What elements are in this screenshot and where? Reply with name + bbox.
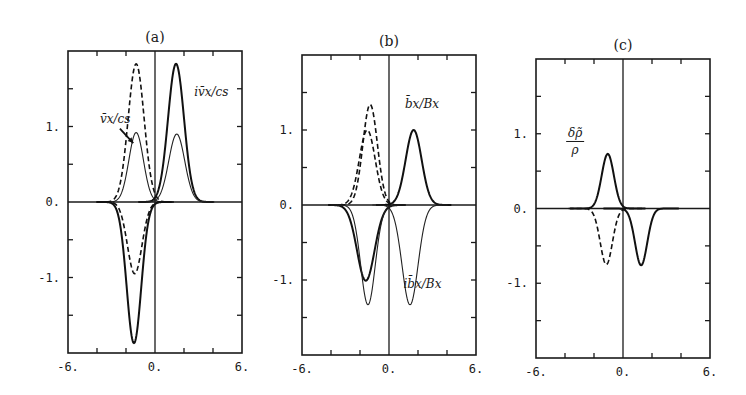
y-tick-label: 0. bbox=[280, 198, 294, 212]
x-tick-label: 0. bbox=[382, 362, 396, 376]
curve-bold bbox=[570, 154, 645, 209]
curve-bold bbox=[603, 209, 678, 266]
y-tick-label: -1. bbox=[38, 271, 60, 285]
curve-dashed bbox=[332, 105, 407, 206]
panel-title: (c) bbox=[614, 37, 633, 53]
y-tick-label: 0. bbox=[514, 202, 528, 216]
curve-dashed bbox=[569, 209, 644, 265]
x-tick-label: -6. bbox=[57, 360, 79, 374]
panel-b: (b)-6.0.6.-1.0.1.b̄x/Bxib̄x/Bx bbox=[272, 33, 483, 376]
x-tick-label: 6. bbox=[235, 360, 249, 374]
annotation-label: ρ bbox=[571, 143, 579, 157]
curve-bold bbox=[376, 130, 451, 205]
x-tick-label: -6. bbox=[291, 362, 313, 376]
y-tick-label: 1. bbox=[46, 120, 60, 134]
annotation-label: v̄x/cs bbox=[100, 112, 130, 126]
panel-c: (c)-6.0.6.-1.0.1.δρ̃ρ bbox=[506, 37, 717, 379]
panel-title: (a) bbox=[145, 29, 164, 45]
panel-a: (a)-6.0.6.-1.0.1.v̄x/csiv̄x/cs bbox=[38, 29, 249, 374]
x-tick-label: 6. bbox=[469, 362, 483, 376]
y-tick-label: -1. bbox=[506, 276, 528, 290]
curve-dashed bbox=[330, 130, 405, 205]
x-tick-label: 0. bbox=[148, 360, 162, 374]
annotation-label: b̄x/Bx bbox=[405, 95, 439, 111]
figure: (a)-6.0.6.-1.0.1.v̄x/csiv̄x/cs (b)-6.0.6… bbox=[0, 0, 746, 395]
x-tick-label: -6. bbox=[525, 365, 547, 379]
annotation-label: iv̄x/cs bbox=[194, 85, 228, 99]
panel-title: (b) bbox=[379, 33, 399, 49]
y-tick-label: 1. bbox=[280, 123, 294, 137]
y-tick-label: 1. bbox=[514, 127, 528, 141]
curve-bold bbox=[328, 205, 403, 281]
x-tick-label: 0. bbox=[616, 365, 630, 379]
annotation-label: ib̄x/Bx bbox=[404, 275, 442, 291]
x-tick-label: 6. bbox=[703, 365, 717, 379]
curve-dashed bbox=[97, 202, 172, 274]
annotation-label: δρ̃ bbox=[568, 126, 582, 140]
y-tick-label: -1. bbox=[272, 273, 294, 287]
y-tick-label: 0. bbox=[46, 195, 60, 209]
